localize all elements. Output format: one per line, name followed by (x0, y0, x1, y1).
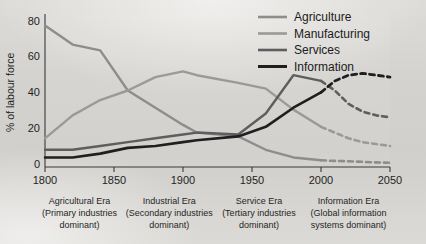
chart-container: % of labour force 80 60 40 20 0 1800 185… (0, 0, 426, 244)
era-caption-line: dominant) (59, 220, 99, 230)
era-caption-line: (Global information (311, 208, 387, 218)
y-tick-80: 80 (28, 15, 40, 27)
era-captions: Agricultural Era(Primary industriesdomin… (42, 196, 387, 230)
era-caption-line: (Primary industries (42, 208, 118, 218)
legend-label: Services (294, 43, 340, 57)
labour-force-chart: % of labour force 80 60 40 20 0 1800 185… (0, 0, 426, 244)
era-caption-line: Agricultural Era (49, 196, 111, 206)
x-tick-1800: 1800 (33, 174, 57, 186)
x-tick-1850: 1850 (102, 174, 126, 186)
era-caption-line: Industrial Era (143, 196, 196, 206)
legend-label: Information (294, 60, 354, 74)
x-tick-2050: 2050 (378, 174, 402, 186)
era-caption-3: Service Era(Tertiary industriesdominant) (222, 196, 296, 230)
era-caption-line: (Secondary industries (126, 208, 214, 218)
legend-label: Manufacturing (294, 27, 370, 41)
y-tick-20: 20 (28, 122, 40, 134)
x-tick-1900: 1900 (171, 174, 195, 186)
era-caption-line: (Tertiary industries (222, 208, 296, 218)
y-axis-title: % of labour force (4, 52, 16, 132)
era-caption-1: Agricultural Era(Primary industriesdomin… (42, 196, 118, 230)
y-tick-0: 0 (34, 158, 40, 170)
era-caption-2: Industrial Era(Secondary industriesdomin… (126, 196, 214, 230)
era-caption-line: Information Era (318, 196, 380, 206)
legend-label: Agriculture (294, 10, 352, 24)
x-axis-ticks (45, 167, 390, 172)
era-caption-line: Service Era (236, 196, 283, 206)
era-caption-line: dominant) (149, 220, 189, 230)
era-caption-line: systems dominant) (311, 220, 387, 230)
era-caption-4: Information Era(Global informationsystem… (311, 196, 387, 230)
y-tick-60: 60 (28, 50, 40, 62)
y-tick-40: 40 (28, 86, 40, 98)
x-tick-1950: 1950 (240, 174, 264, 186)
x-tick-2000: 2000 (309, 174, 333, 186)
era-caption-line: dominant) (239, 220, 279, 230)
